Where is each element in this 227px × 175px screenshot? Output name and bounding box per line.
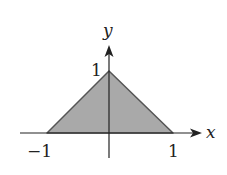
y-tick-label: 1 [91,60,102,80]
x-axis-label: x [206,122,216,142]
triangle-chart: y 1 x −1 1 [0,0,227,175]
x-tick-label-neg: −1 [27,141,52,161]
y-axis-label: y [102,20,113,40]
shaded-triangle-region [47,71,173,133]
x-tick-label-pos: 1 [168,141,179,161]
